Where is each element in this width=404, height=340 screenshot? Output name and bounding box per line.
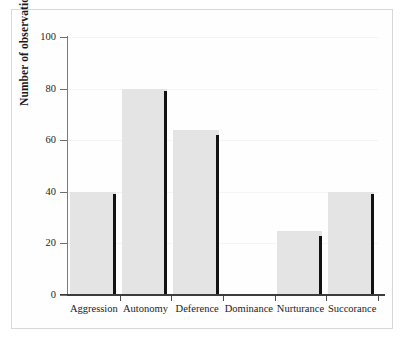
y-tick-label-text: 80 — [28, 84, 56, 94]
y-tick-mark — [60, 192, 67, 193]
x-tick-mark — [378, 296, 379, 301]
y-tick-label: 40 — [22, 187, 56, 197]
bar-aggression — [70, 192, 116, 295]
x-tick-mark — [171, 296, 172, 301]
y-tick-mark — [60, 89, 67, 90]
y-tick-label: 80 — [22, 84, 56, 94]
plot-area — [68, 37, 378, 295]
bar-edge-autonomy — [164, 91, 167, 295]
y-tick-label: 20 — [22, 238, 56, 248]
y-tick-label: 100 — [22, 32, 56, 42]
y-tick-mark — [60, 140, 67, 141]
y-tick-label-text: 40 — [28, 187, 56, 197]
bar-nurturance — [277, 231, 323, 296]
gridline — [68, 89, 378, 90]
y-tick-mark — [60, 37, 67, 38]
bar-autonomy — [122, 89, 168, 295]
y-tick-label: 60 — [22, 135, 56, 145]
x-tick-label-succorance: Succorance — [322, 303, 382, 314]
x-tick-mark — [275, 296, 276, 301]
bar-edge-aggression — [113, 194, 116, 295]
y-tick-label-text: 20 — [28, 238, 56, 248]
bar-deference — [173, 130, 219, 295]
bar-edge-succorance — [371, 194, 374, 295]
y-tick-label: 0 — [22, 290, 56, 300]
y-tick-label-text: 60 — [28, 135, 56, 145]
chart-figure: Number of observations 020406080100Aggre… — [0, 0, 404, 340]
x-tick-mark — [120, 296, 121, 301]
gridline — [68, 37, 378, 38]
y-axis-line — [67, 36, 68, 296]
y-tick-label-text: 0 — [28, 290, 56, 300]
x-tick-mark — [326, 296, 327, 301]
y-tick-label-text: 100 — [28, 32, 56, 42]
gridline — [68, 140, 378, 141]
bar-edge-deference — [216, 135, 219, 295]
bar-edge-nurturance — [319, 236, 322, 295]
y-tick-mark — [60, 243, 67, 244]
x-tick-mark — [223, 296, 224, 301]
bar-succorance — [328, 192, 374, 295]
y-tick-mark — [60, 295, 67, 296]
